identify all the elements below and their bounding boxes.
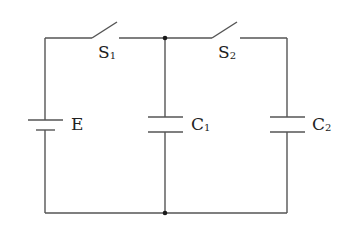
label-s2: S2: [218, 44, 236, 61]
label-e: E: [71, 116, 83, 133]
top-junction-dot: [163, 36, 168, 41]
bottom-junction-dot: [163, 211, 168, 216]
label-c1: C1: [191, 116, 210, 133]
circuit-diagram: S1 S2 E C1 C2: [0, 0, 355, 238]
switch-s1: [45, 22, 165, 38]
switch-s1-blade: [92, 22, 117, 38]
label-s1: S1: [98, 44, 116, 61]
switch-s2-blade: [212, 22, 237, 38]
capacitor-c2-branch: [270, 38, 305, 213]
label-c2: C2: [312, 116, 331, 133]
circuit-schematic: [0, 0, 355, 238]
capacitor-c1-branch: [148, 38, 183, 213]
switch-s2: [165, 22, 287, 38]
battery-e-branch: [28, 38, 63, 213]
